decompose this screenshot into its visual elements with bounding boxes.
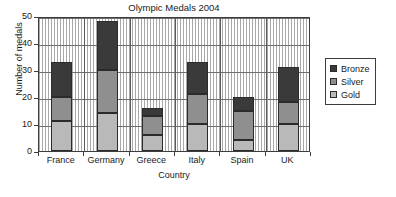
legend-item[interactable]: Gold	[330, 88, 370, 101]
bar-stack[interactable]	[142, 17, 163, 151]
plot-area	[38, 17, 310, 152]
bar-stack[interactable]	[233, 17, 254, 151]
legend-item[interactable]: Silver	[330, 75, 370, 88]
bar-segment-gold[interactable]	[142, 135, 163, 151]
bar-segment-bronze[interactable]	[278, 67, 299, 102]
x-tick-label-spain: Spain	[219, 155, 264, 165]
chart-title: Olympic Medals 2004	[38, 2, 310, 13]
bar-segment-silver[interactable]	[51, 97, 72, 121]
legend-swatch-icon	[330, 78, 337, 85]
legend-label: Silver	[341, 77, 364, 87]
y-tick-label: 10	[2, 120, 32, 129]
bars-layer	[39, 18, 309, 151]
bar-segment-silver[interactable]	[233, 111, 254, 141]
x-axis-title: Country	[38, 170, 310, 180]
bar-segment-silver[interactable]	[187, 94, 208, 124]
x-tick-label-greece: Greece	[129, 155, 174, 165]
bar-segment-bronze[interactable]	[97, 21, 118, 70]
x-tick-label-germany: Germany	[83, 155, 128, 165]
bar-segment-bronze[interactable]	[233, 97, 254, 111]
bar-segment-silver[interactable]	[142, 116, 163, 135]
chart-figure: Olympic Medals 2004 Number of medals 010…	[0, 0, 396, 197]
bar-segment-bronze[interactable]	[187, 62, 208, 94]
bar-stack[interactable]	[278, 17, 299, 151]
x-tick-label-italy: Italy	[174, 155, 219, 165]
bar-segment-silver[interactable]	[278, 102, 299, 124]
x-tick-label-uk: UK	[265, 155, 310, 165]
x-tick-mark	[310, 152, 311, 156]
legend-label: Bronze	[341, 64, 370, 74]
y-tick-mark	[34, 125, 38, 126]
bar-segment-gold[interactable]	[97, 113, 118, 151]
legend-swatch-icon	[330, 91, 337, 98]
chart-legend: BronzeSilverGold	[325, 58, 376, 105]
bar-stack[interactable]	[187, 17, 208, 151]
bar-stack[interactable]	[51, 17, 72, 151]
legend-label: Gold	[341, 90, 360, 100]
y-tick-label: 40	[2, 39, 32, 48]
y-tick-label: 0	[2, 147, 32, 156]
bar-segment-gold[interactable]	[187, 124, 208, 151]
legend-item[interactable]: Bronze	[330, 62, 370, 75]
bar-segment-gold[interactable]	[278, 124, 299, 151]
bar-stack[interactable]	[97, 17, 118, 151]
y-tick-mark	[34, 17, 38, 18]
bar-segment-silver[interactable]	[97, 70, 118, 113]
bar-segment-gold[interactable]	[233, 140, 254, 151]
bar-segment-bronze[interactable]	[51, 62, 72, 97]
y-tick-label: 50	[2, 12, 32, 21]
x-tick-label-france: France	[38, 155, 83, 165]
y-tick-mark	[34, 44, 38, 45]
bar-segment-bronze[interactable]	[142, 108, 163, 116]
y-tick-label: 30	[2, 66, 32, 75]
y-tick-mark	[34, 98, 38, 99]
y-tick-label: 20	[2, 93, 32, 102]
legend-swatch-icon	[330, 65, 337, 72]
y-tick-mark	[34, 71, 38, 72]
bar-segment-gold[interactable]	[51, 121, 72, 151]
